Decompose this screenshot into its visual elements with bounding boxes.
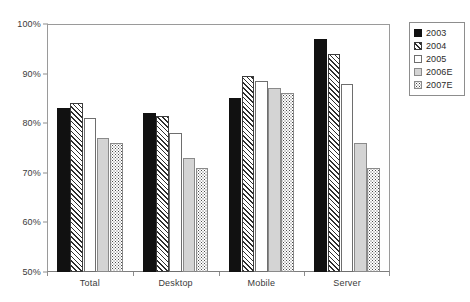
bar-desktop-2005	[169, 133, 182, 272]
bar-mobile-2003	[229, 98, 242, 272]
legend-item-label: 2007E	[426, 80, 453, 90]
x-axis-category-label: Total	[80, 278, 100, 288]
bar-total-2003	[57, 108, 70, 272]
legend-item-label: 2003	[426, 28, 446, 38]
x-axis-tick-marks	[47, 272, 390, 277]
bars-layer	[47, 24, 390, 272]
legend-swatch-icon	[414, 42, 422, 50]
legend-item-2005[interactable]: 2005	[414, 52, 461, 65]
y-axis-tick-label: 80%	[22, 118, 41, 128]
y-axis-tick-labels: 50%60%70%80%90%100%	[0, 24, 41, 272]
legend-item-label: 2005	[426, 54, 446, 64]
legend-item-2004[interactable]: 2004	[414, 39, 461, 52]
legend-swatch-icon	[414, 29, 422, 37]
x-axis-category-label: Server	[333, 278, 361, 288]
x-axis-tick-mark	[304, 272, 305, 276]
legend-item-2003[interactable]: 2003	[414, 26, 461, 39]
x-axis-tick-mark	[47, 272, 48, 276]
legend-swatch-icon	[414, 55, 422, 63]
y-axis-tick-label: 90%	[22, 69, 41, 79]
chart-legend: 2003200420052006E2007E	[409, 22, 465, 96]
y-axis-tick-label: 60%	[22, 217, 41, 227]
bar-total-2005	[84, 118, 97, 272]
bar-desktop-2003	[143, 113, 156, 272]
bar-mobile-2004	[242, 76, 255, 272]
legend-swatch-icon	[414, 81, 422, 89]
bar-total-2006e	[97, 138, 110, 272]
legend-item-label: 2006E	[426, 67, 453, 77]
x-axis-category-label: Mobile	[248, 278, 276, 288]
bar-desktop-2004	[156, 116, 169, 272]
bar-server-2007e	[367, 168, 380, 272]
bar-mobile-2007e	[281, 93, 294, 272]
bar-total-2004	[70, 103, 83, 272]
bar-desktop-2006e	[183, 158, 196, 272]
y-axis-tick-label: 70%	[22, 168, 41, 178]
bar-server-2003	[314, 39, 327, 272]
bar-server-2006e	[354, 143, 367, 272]
bar-mobile-2005	[255, 81, 268, 272]
x-axis-tick-mark	[219, 272, 220, 276]
y-axis-tick-label: 100%	[17, 19, 41, 29]
y-axis-tick-label: 50%	[22, 267, 41, 277]
bar-chart: 50%60%70%80%90%100% TotalDesktopMobileSe…	[0, 0, 470, 302]
legend-swatch-icon	[414, 68, 422, 76]
legend-item-label: 2004	[426, 41, 446, 51]
bar-server-2004	[328, 54, 341, 272]
x-axis-category-label: Desktop	[158, 278, 192, 288]
bar-server-2005	[341, 84, 354, 272]
x-axis-tick-mark	[133, 272, 134, 276]
bar-desktop-2007e	[196, 168, 209, 272]
x-axis-category-labels: TotalDesktopMobileServer	[47, 278, 390, 294]
bar-mobile-2006e	[268, 88, 281, 272]
bar-total-2007e	[110, 143, 123, 272]
legend-item-2006e[interactable]: 2006E	[414, 65, 461, 78]
x-axis-tick-mark	[389, 272, 390, 276]
legend-item-2007e[interactable]: 2007E	[414, 78, 461, 91]
